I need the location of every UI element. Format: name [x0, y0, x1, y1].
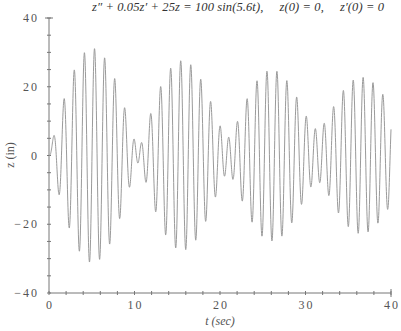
x-tick-label: 40: [384, 298, 400, 312]
y-tick-label: −40: [14, 286, 39, 300]
y-axis-label: z (in): [3, 142, 17, 168]
x-tick-label: 20: [213, 298, 229, 312]
x-axis-label: t (sec): [205, 314, 235, 328]
y-tick-label: 0: [31, 149, 39, 163]
x-tick-label: 0: [46, 298, 54, 312]
y-tick-label: −20: [14, 217, 39, 231]
series-line-z: [49, 49, 391, 262]
x-tick-label: 10: [128, 298, 144, 312]
x-tick-label: 30: [299, 298, 315, 312]
y-tick-label: 40: [23, 11, 39, 25]
y-tick-label: 20: [23, 80, 39, 94]
axes: −40−2002040010203040: [14, 11, 400, 312]
chart-area: −40−2002040010203040 t (sec) z (in): [0, 0, 401, 331]
